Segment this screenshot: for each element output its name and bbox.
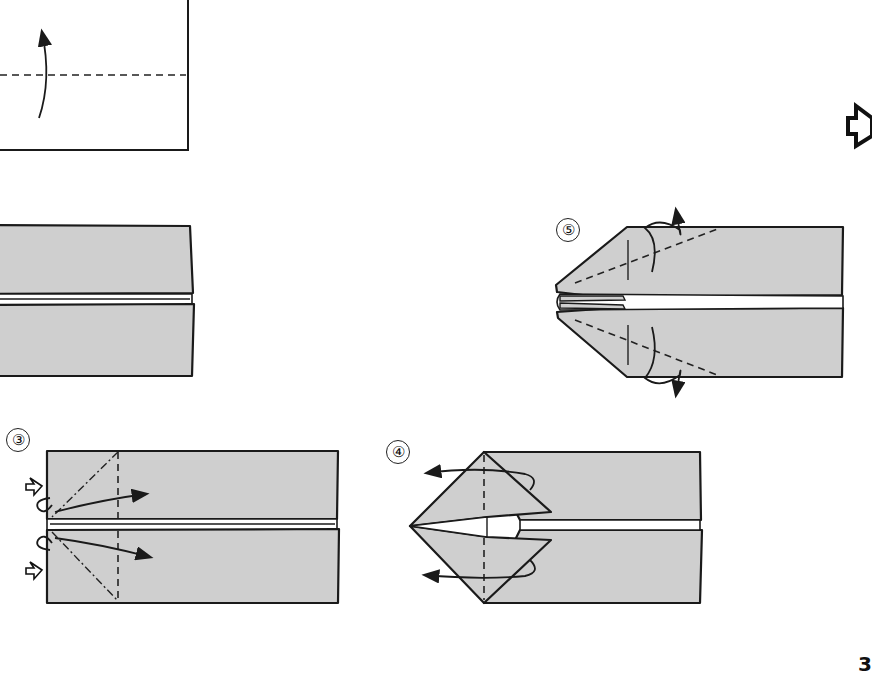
step-2-diagram — [0, 225, 194, 376]
step-5-diagram — [556, 210, 843, 395]
origami-diagram — [0, 0, 872, 677]
step-number-5: ⑤ — [556, 218, 580, 242]
push-arrow-icon — [26, 478, 42, 495]
upper-strip — [47, 451, 338, 519]
step-number-4: ④ — [386, 440, 410, 464]
next-step-arrow-icon — [848, 106, 872, 146]
step-1-diagram — [0, 0, 188, 150]
center-gap — [520, 520, 700, 530]
step-3-diagram — [26, 451, 339, 603]
step-4-diagram — [410, 452, 702, 603]
lower-body — [557, 308, 843, 377]
push-arrow-icon — [26, 562, 42, 579]
step-number-3: ③ — [6, 428, 30, 452]
page-number: 3 — [858, 652, 872, 676]
lower-strip — [0, 304, 194, 376]
upper-body — [556, 227, 843, 297]
upper-strip — [0, 225, 193, 294]
lower-strip — [47, 529, 339, 603]
